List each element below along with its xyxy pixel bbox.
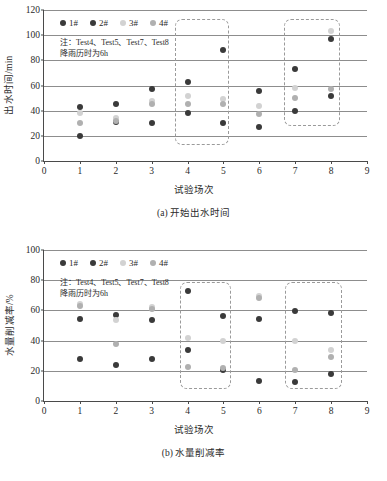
x-tick-label: 0 — [42, 406, 47, 416]
x-tick-label: 4 — [185, 406, 190, 416]
y-tick-mark — [41, 310, 44, 311]
legend-marker-icon — [60, 260, 66, 266]
x-tick-mark — [295, 161, 296, 164]
data-point — [328, 28, 334, 34]
data-point — [220, 101, 226, 107]
data-point — [328, 371, 334, 377]
data-point — [220, 338, 226, 344]
data-point — [328, 93, 334, 99]
y-tick-label: 0 — [35, 156, 40, 166]
data-point — [77, 303, 83, 309]
data-point — [292, 66, 298, 72]
y-axis-title-b: 水量削减率/% — [2, 294, 16, 356]
legend-marker-icon — [90, 20, 96, 26]
x-tick-mark — [80, 401, 81, 404]
x-tick-mark — [331, 401, 332, 404]
x-tick-mark — [295, 401, 296, 404]
y-tick-mark — [41, 35, 44, 36]
data-point — [77, 356, 83, 362]
x-tick-label: 2 — [113, 406, 118, 416]
data-point — [185, 347, 191, 353]
legend-label: 2# — [99, 258, 108, 268]
data-point — [149, 120, 155, 126]
caption-a: (a) 开始出水时间 — [0, 205, 387, 219]
data-point — [220, 365, 226, 371]
x-tick-label: 8 — [329, 406, 334, 416]
x-tick-mark — [44, 161, 45, 164]
data-point — [292, 108, 298, 114]
x-tick-label: 9 — [365, 166, 370, 176]
data-point — [149, 101, 155, 107]
data-point — [292, 85, 298, 91]
legend-label: 4# — [159, 258, 168, 268]
plot-area-a: 出水时间/min 0204060801001200123456789 1#2#3… — [0, 0, 387, 198]
data-point — [149, 356, 155, 362]
y-axis-title-a: 出水时间/min — [1, 55, 15, 114]
data-point — [185, 79, 191, 85]
y-tick-mark — [41, 60, 44, 61]
figure-a-outflow-start-time: 出水时间/min 0204060801001200123456789 1#2#3… — [0, 0, 387, 240]
plot-area-b: 水量削减率/% 0204060801000123456789 1#2#3#4# … — [0, 240, 387, 438]
x-tick-mark — [116, 401, 117, 404]
legend-label: 1# — [69, 258, 78, 268]
data-point — [220, 120, 226, 126]
data-point — [149, 317, 155, 323]
y-tick-label: 60 — [31, 305, 41, 315]
x-tick-label: 7 — [293, 406, 298, 416]
data-point — [292, 367, 298, 373]
legend-label: 3# — [129, 18, 138, 28]
data-point — [185, 288, 191, 294]
legend-item: 3# — [120, 18, 138, 28]
x-axis-title-a: 试验场次 — [0, 182, 387, 196]
x-tick-mark — [116, 161, 117, 164]
data-point — [220, 313, 226, 319]
y-tick-label: 20 — [31, 131, 41, 141]
data-point — [256, 103, 262, 109]
data-point — [185, 93, 191, 99]
x-tick-mark — [188, 401, 189, 404]
data-point — [185, 110, 191, 116]
data-point — [149, 306, 155, 312]
x-tick-mark — [367, 401, 368, 404]
y-axis-title-holder-b: 水量削减率/% — [2, 250, 16, 400]
x-tick-label: 2 — [113, 166, 118, 176]
data-point — [292, 95, 298, 101]
y-tick-label: 80 — [31, 275, 41, 285]
y-tick-label: 120 — [26, 5, 40, 15]
x-tick-mark — [152, 401, 153, 404]
data-point — [77, 104, 83, 110]
legend-marker-icon — [120, 260, 126, 266]
data-point — [113, 317, 119, 323]
data-point — [292, 379, 298, 385]
legend-label: 4# — [159, 18, 168, 28]
data-point — [256, 111, 262, 117]
data-point — [328, 354, 334, 360]
legend-a: 1#2#3#4# — [60, 18, 168, 28]
gridline — [44, 10, 367, 11]
x-tick-label: 9 — [365, 406, 370, 416]
x-tick-label: 3 — [149, 406, 154, 416]
x-tick-mark — [223, 401, 224, 404]
y-tick-label: 80 — [31, 55, 41, 65]
data-point — [328, 86, 334, 92]
x-tick-label: 4 — [185, 166, 190, 176]
data-point — [256, 378, 262, 384]
x-tick-mark — [259, 401, 260, 404]
y-tick-mark — [41, 340, 44, 341]
x-tick-label: 1 — [78, 406, 83, 416]
data-point — [185, 364, 191, 370]
legend-marker-icon — [90, 260, 96, 266]
data-point — [256, 124, 262, 130]
y-tick-label: 100 — [26, 245, 40, 255]
x-tick-label: 8 — [329, 166, 334, 176]
x-tick-label: 6 — [257, 406, 262, 416]
legend-item: 4# — [150, 258, 168, 268]
y-tick-mark — [41, 85, 44, 86]
gridline — [44, 250, 367, 251]
figure-b-volume-reduction-rate: 水量削减率/% 0204060801000123456789 1#2#3#4# … — [0, 240, 387, 481]
legend-label: 3# — [129, 258, 138, 268]
x-tick-mark — [152, 161, 153, 164]
x-tick-label: 5 — [221, 166, 226, 176]
y-tick-mark — [41, 110, 44, 111]
y-tick-label: 40 — [31, 106, 41, 116]
